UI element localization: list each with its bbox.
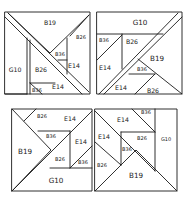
label-b36-left: B36 — [99, 37, 109, 43]
label-b19: B19 — [18, 147, 33, 156]
label-b26-bottom: B26 — [97, 162, 107, 168]
label-b26-top: B26 — [37, 113, 47, 119]
label-g10: G10 — [133, 18, 148, 27]
block-bottom-right: B36 E14 E14 B26 G10 B36 B26 B19 — [95, 109, 177, 191]
label-b36-center: B36 — [46, 133, 56, 139]
label-b26: B26 — [35, 66, 47, 73]
label-g10: G10 — [161, 136, 171, 142]
label-b36-center: B36 — [137, 66, 147, 72]
diagonal-stripe-a — [5, 17, 82, 94]
label-b36-center: B36 — [122, 146, 132, 152]
label-b26: B26 — [137, 135, 147, 141]
label-g10: G10 — [49, 176, 64, 185]
label-e14-right: E14 — [68, 62, 80, 69]
diagonal-stripe-b — [104, 17, 182, 94]
big-tri-right — [138, 59, 182, 94]
label-b19: B19 — [129, 171, 144, 180]
label-b36-top: B36 — [141, 109, 151, 115]
block-top-left: B19 G10 B26 B36 B26 E14 E14 B36 — [5, 12, 90, 94]
label-e14-right: E14 — [75, 138, 87, 145]
b26-stripe — [70, 15, 89, 36]
block-bottom-left: B26 E14 B36 B19 E14 B26 B36 G10 — [12, 109, 92, 191]
label-b19: B19 — [150, 54, 165, 63]
label-e14-top: E14 — [64, 115, 76, 122]
label-g10: G10 — [9, 66, 22, 73]
label-e14-left: E14 — [98, 133, 110, 140]
label-b36: B36 — [55, 51, 65, 57]
block-top-right: G10 B36 B26 E14 B19 B36 E14 B26 — [97, 12, 182, 94]
label-b19: B19 — [44, 19, 56, 26]
label-e14-bottom: E14 — [52, 83, 64, 90]
label-b26-top: B26 — [76, 34, 86, 40]
label-e14-bottom: E14 — [115, 84, 127, 91]
label-b36-right: B36 — [78, 159, 88, 165]
label-e14-left: E14 — [99, 64, 111, 71]
label-b36-bottom: B36 — [32, 87, 42, 93]
label-b26: B26 — [126, 38, 138, 45]
label-b26: B26 — [55, 156, 65, 162]
label-b26-bottom: B26 — [147, 87, 159, 94]
label-e14-top: E14 — [117, 116, 129, 123]
quilt-diagram: B19 G10 B26 B36 B26 E14 E14 B36 G10 B36 … — [0, 0, 185, 199]
b26-top-edge — [24, 109, 36, 121]
